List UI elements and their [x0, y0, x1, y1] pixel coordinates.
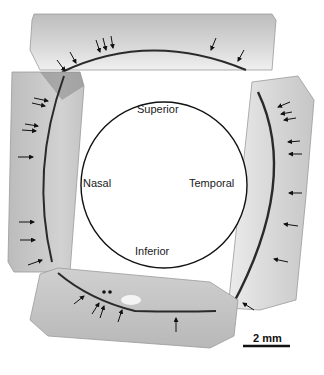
bottom-tissue-panel [30, 268, 238, 348]
label-nasal: Nasal [83, 177, 111, 189]
figure-canvas [0, 0, 324, 375]
label-temporal: Temporal [189, 177, 234, 189]
left-tissue-panel [8, 72, 84, 272]
label-superior: Superior [137, 103, 179, 115]
scale-bar-label: 2 mm [253, 332, 282, 344]
label-inferior: Inferior [135, 245, 169, 257]
top-tissue-panel [30, 14, 276, 72]
